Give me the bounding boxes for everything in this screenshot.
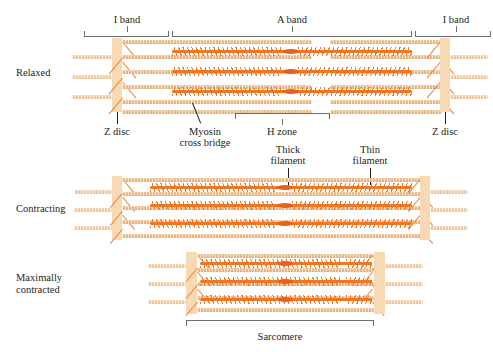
thin-filament-free: [385, 264, 423, 268]
row-label-maximally-contracted-line1: Maximally: [16, 272, 62, 284]
m-band: [278, 279, 293, 284]
label-thin-filament-line2: filament: [353, 155, 388, 167]
label-thick-filament-line1: Thick: [276, 144, 301, 156]
label-myosin-cross-bridge-line1: Myosin: [189, 126, 221, 138]
label-z-disc-left: Z disc: [104, 126, 130, 138]
thin-filament-free: [72, 95, 112, 99]
m-band: [283, 89, 299, 94]
thin-filament-right: [285, 192, 422, 196]
thin-filament-free: [430, 226, 468, 230]
bracket-i-band-right: [415, 31, 491, 37]
m-band: [278, 297, 293, 302]
thin-filament-free: [148, 264, 186, 268]
thin-filament-free: [430, 190, 468, 194]
m-band: [277, 221, 293, 226]
thin-filament-free: [385, 282, 423, 286]
thin-filament-free: [450, 75, 488, 79]
thin-filament-left: [197, 308, 374, 312]
thin-filament-free: [450, 95, 488, 99]
label-sarcomere: Sarcomere: [258, 331, 303, 343]
thin-filament-free: [450, 55, 488, 59]
bracket-a-band: [172, 31, 412, 37]
z-disc-right: [420, 176, 430, 240]
m-band: [277, 203, 293, 208]
label-z-disc-right: Z disc: [432, 126, 458, 138]
thin-filament-free: [74, 226, 112, 230]
thin-filament-right: [285, 234, 422, 238]
thin-filament-free: [74, 190, 112, 194]
thin-filament-free: [148, 282, 186, 286]
row-label-maximally-contracted-line2: contracted: [16, 284, 60, 296]
thin-filament-left: [197, 254, 374, 258]
m-band: [278, 261, 293, 266]
thin-filament-free: [385, 300, 423, 304]
thin-filament-left: [197, 268, 374, 272]
bracket-i-band-left: [84, 31, 169, 37]
thin-filament-left: [122, 40, 312, 44]
z-disc-right: [374, 252, 385, 314]
m-band: [277, 185, 293, 190]
thin-filament-free: [72, 75, 112, 79]
leader-z-disc-right: [445, 112, 446, 124]
thin-filament-free: [74, 208, 112, 212]
label-a-band: A band: [277, 14, 307, 26]
label-thin-filament-line1: Thin: [360, 144, 380, 156]
tick-h-zone: [282, 119, 283, 125]
label-h-zone: H zone: [267, 126, 297, 138]
thin-filament-right: [285, 178, 422, 182]
label-i-band-right: I band: [443, 14, 470, 26]
m-band: [283, 49, 299, 54]
thin-filament-free: [148, 300, 186, 304]
m-band: [283, 69, 299, 74]
label-myosin-cross-bridge-line2: cross bridge: [179, 137, 230, 149]
label-i-band-left: I band: [114, 14, 141, 26]
thin-filament-free: [72, 55, 112, 59]
thin-filament-left: [122, 100, 312, 104]
row-label-relaxed: Relaxed: [16, 67, 50, 79]
z-disc-right: [440, 38, 450, 112]
z-disc-chevrons-right: [358, 252, 374, 314]
label-thick-filament-line2: filament: [271, 155, 306, 167]
bracket-sarcomere: [186, 320, 374, 326]
row-label-contracting: Contracting: [16, 203, 66, 215]
thin-filament-free: [430, 208, 468, 212]
figure-canvas: I band A band I band Relaxed: [0, 0, 493, 352]
leader-z-disc-left: [117, 112, 118, 124]
